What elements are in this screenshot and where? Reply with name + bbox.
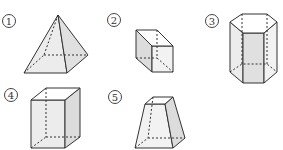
rectangular-prism-shape [31, 88, 80, 148]
frustum-shape [135, 97, 185, 148]
cube-shape [136, 30, 173, 72]
solids-figure [0, 0, 283, 150]
pyramid-shape [24, 15, 88, 73]
hexagonal-prism-shape [230, 14, 277, 83]
